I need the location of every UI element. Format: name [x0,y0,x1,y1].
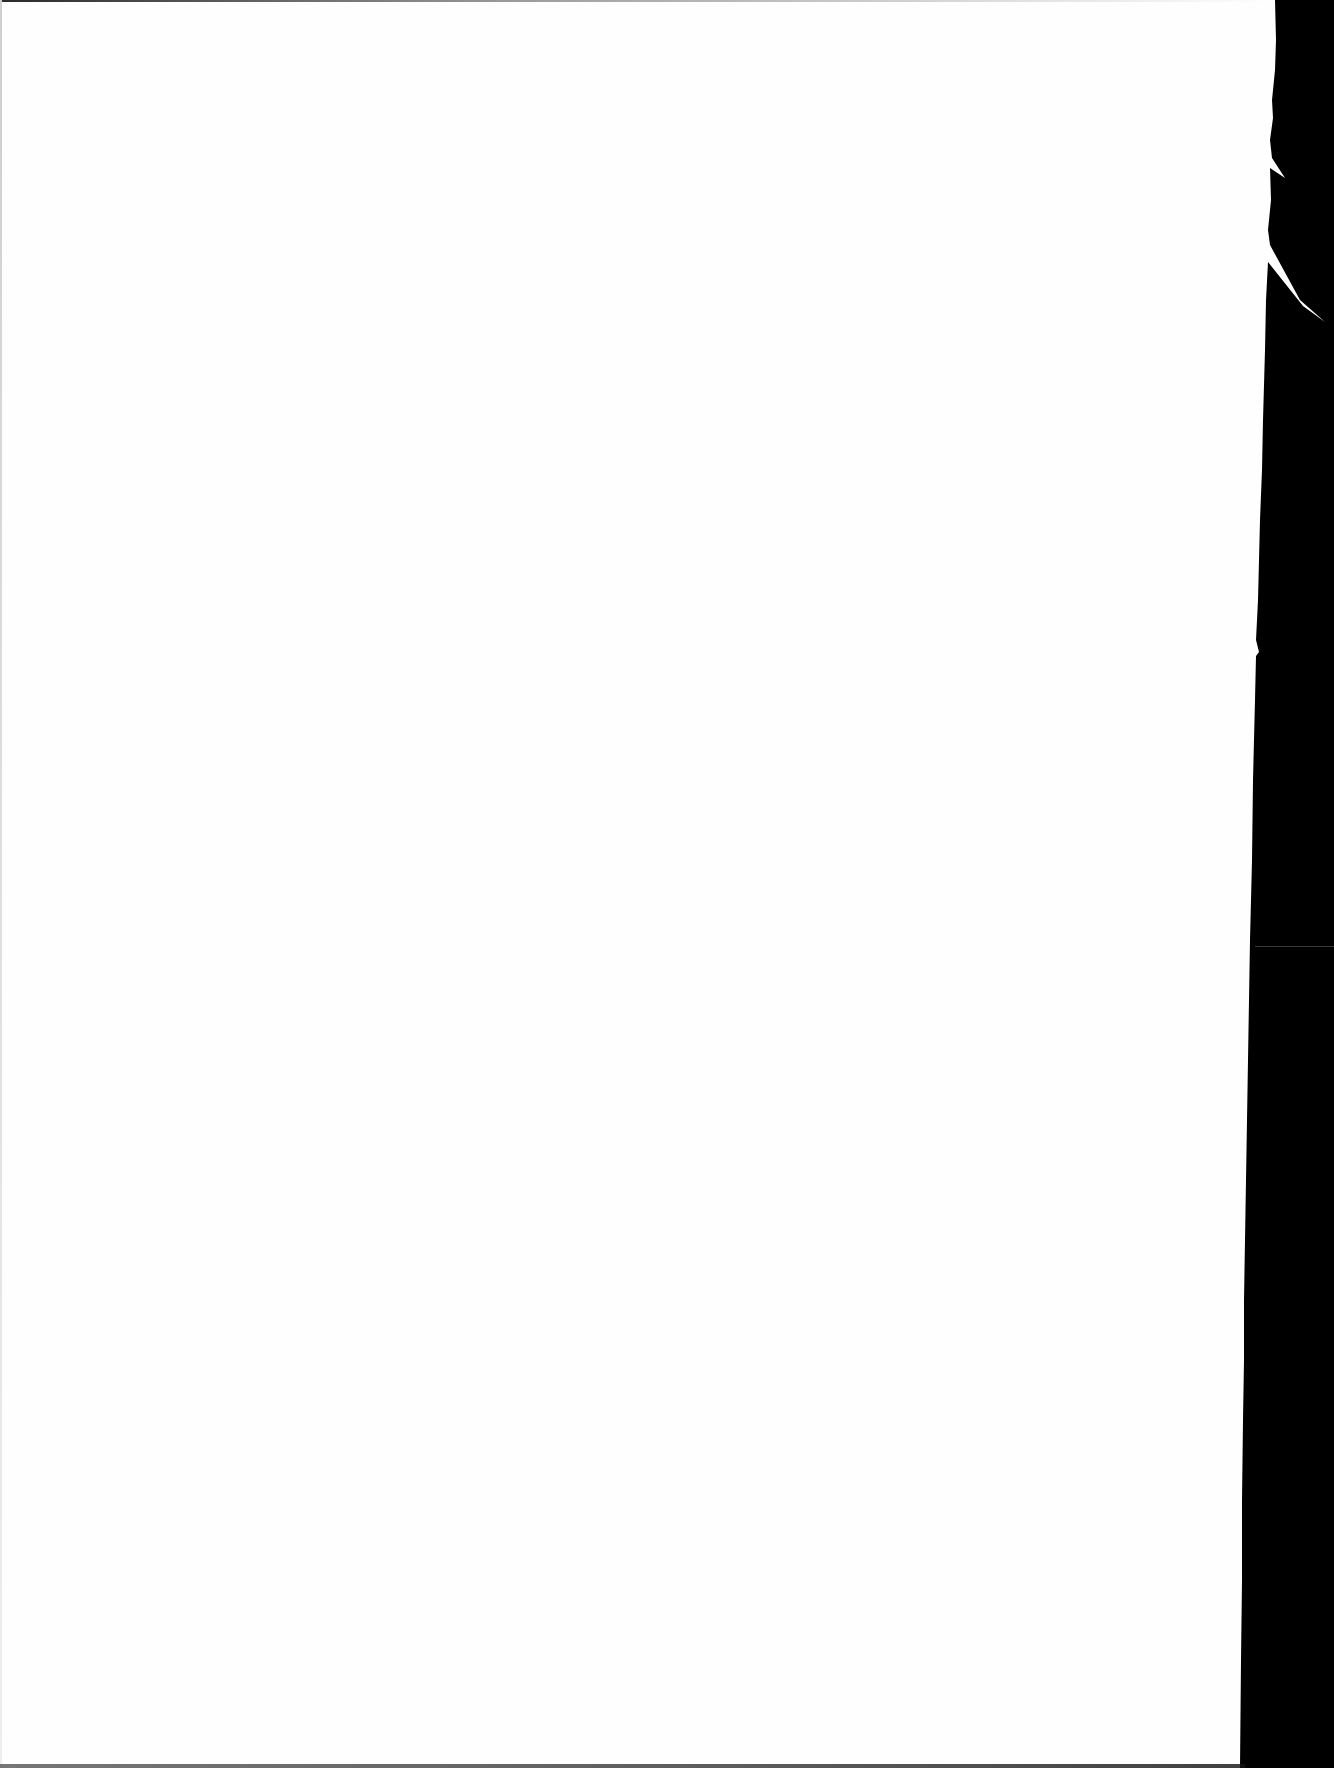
torn-paper-edge [0,0,1334,1768]
scanned-document [0,0,1334,1768]
page-bottom-edge-shadow [0,1764,1245,1768]
blank-paper-page [0,0,1334,1768]
page-left-edge-shadow [0,0,2,1768]
page-top-edge-shadow [0,0,1270,2]
scanner-seam-line [1255,946,1334,947]
